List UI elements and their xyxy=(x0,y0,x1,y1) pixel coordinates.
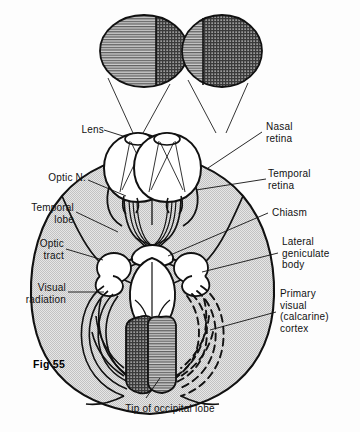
figure-page: Lens Optic N. Temporal lobe Optic tract … xyxy=(0,0,360,432)
left-visual-field-disc xyxy=(98,12,192,92)
figure-number: Fig 55 xyxy=(33,358,65,370)
leader-lens xyxy=(104,130,126,137)
right-visual-field-disc xyxy=(180,12,265,92)
leader-nasal-retina xyxy=(208,132,262,168)
